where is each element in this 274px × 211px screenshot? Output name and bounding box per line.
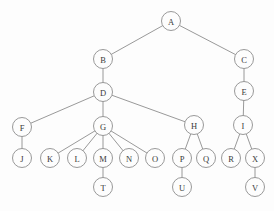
tree-edge-d-f xyxy=(31,96,95,123)
tree-edge-h-p xyxy=(185,134,191,149)
tree-node-k[interactable]: K xyxy=(41,149,60,168)
tree-node-l[interactable]: L xyxy=(68,149,87,168)
node-label-x: X xyxy=(252,154,258,164)
tree-edge-g-n xyxy=(109,133,123,150)
tree-edge-i-r xyxy=(234,134,240,149)
tree-node-a[interactable]: A xyxy=(162,12,181,31)
node-label-f: F xyxy=(20,123,25,133)
node-label-m: M xyxy=(99,154,107,164)
node-label-d: D xyxy=(100,88,106,98)
node-label-v: V xyxy=(252,183,259,193)
tree-node-x[interactable]: X xyxy=(246,149,265,168)
node-label-r: R xyxy=(228,154,234,164)
node-label-q: Q xyxy=(203,154,209,164)
tree-edge-g-l xyxy=(83,133,97,150)
tree-node-v[interactable]: V xyxy=(246,178,265,197)
node-label-e: E xyxy=(241,87,246,97)
tree-node-o[interactable]: O xyxy=(146,149,165,168)
tree-node-g[interactable]: G xyxy=(94,117,113,136)
tree-node-n[interactable]: N xyxy=(120,149,139,168)
tree-edge-a-b xyxy=(111,26,162,55)
node-label-a: A xyxy=(168,17,175,27)
tree-edge-i-x xyxy=(246,134,252,149)
tree-node-d[interactable]: D xyxy=(94,83,113,102)
node-label-t: T xyxy=(100,183,106,193)
tree-node-p[interactable]: P xyxy=(173,149,192,168)
tree-node-u[interactable]: U xyxy=(173,178,192,197)
node-label-c: C xyxy=(241,55,247,65)
tree-diagram-canvas: ABCDEFGHIJKLMNOPQRXTUV xyxy=(0,0,274,211)
tree-edge-d-h xyxy=(112,95,185,122)
tree-node-b[interactable]: B xyxy=(94,50,113,69)
node-label-o: O xyxy=(152,154,158,164)
node-label-u: U xyxy=(179,183,185,193)
tree-node-r[interactable]: R xyxy=(222,149,241,168)
tree-diagram: ABCDEFGHIJKLMNOPQRXTUV xyxy=(0,0,274,211)
tree-node-q[interactable]: Q xyxy=(197,149,216,168)
tree-node-h[interactable]: H xyxy=(185,116,204,135)
tree-node-m[interactable]: M xyxy=(94,149,113,168)
tree-node-c[interactable]: C xyxy=(235,50,254,69)
tree-edge-h-q xyxy=(197,134,203,149)
node-label-b: B xyxy=(100,55,106,65)
node-label-h: H xyxy=(191,121,197,131)
node-label-i: I xyxy=(242,121,245,131)
node-label-l: L xyxy=(74,154,79,164)
node-label-g: G xyxy=(100,122,106,132)
node-label-n: N xyxy=(126,154,132,164)
tree-node-t[interactable]: T xyxy=(94,178,113,197)
node-label-p: P xyxy=(180,154,185,164)
tree-node-e[interactable]: E xyxy=(235,82,254,101)
node-label-k: K xyxy=(47,154,54,164)
tree-node-f[interactable]: F xyxy=(13,118,32,137)
tree-node-j[interactable]: J xyxy=(13,149,32,168)
tree-edge-a-c xyxy=(179,25,235,54)
tree-node-i[interactable]: I xyxy=(234,116,253,135)
